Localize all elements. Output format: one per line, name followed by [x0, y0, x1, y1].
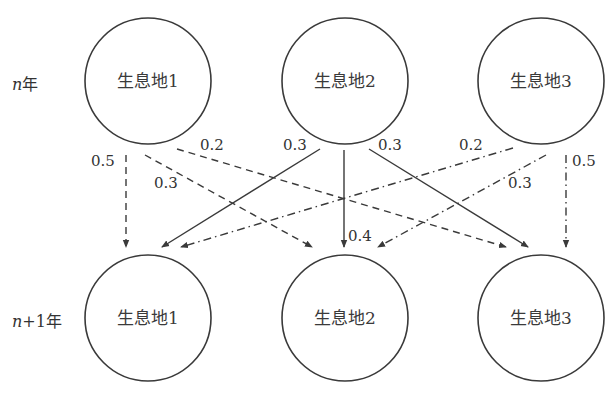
node-habitat-3-year-n: 生息地3 [478, 18, 604, 144]
edge-label-h3-h2: 0.3 [508, 174, 532, 192]
edge-h3-to-h2 [378, 155, 546, 247]
edge-label-h2-h2: 0.4 [348, 227, 372, 245]
node-label: 生息地3 [510, 308, 572, 328]
node-label: 生息地3 [510, 71, 572, 91]
row-label-year-n-plus-1: n+1年 [12, 312, 62, 331]
row-label-year-n: n年 [12, 75, 38, 94]
edge-h1-to-h3 [177, 149, 506, 247]
edge-label-h2-h1: 0.3 [283, 136, 307, 154]
node-label: 生息地1 [117, 308, 179, 328]
edge-h2-to-h1 [162, 149, 320, 247]
node-habitat-2-year-n: 生息地2 [282, 18, 408, 144]
edge-label-h1-h1: 0.5 [91, 152, 115, 170]
nodes-year-n-plus-1: 生息地1 生息地2 生息地3 [85, 255, 604, 381]
node-habitat-1-year-n-plus-1: 生息地1 [85, 255, 211, 381]
edge-h2-to-h3 [369, 149, 528, 247]
node-label: 生息地1 [117, 71, 179, 91]
edges-from-habitat-3 [181, 148, 566, 247]
node-habitat-3-year-n-plus-1: 生息地3 [478, 255, 604, 381]
edge-label-h1-h2: 0.3 [154, 174, 178, 192]
edge-label-h3-h1: 0.2 [459, 136, 483, 154]
node-habitat-2-year-n-plus-1: 生息地2 [282, 255, 408, 381]
node-label: 生息地2 [314, 71, 376, 91]
nodes-year-n: 生息地1 生息地2 生息地3 [85, 18, 604, 144]
edge-h3-to-h1 [181, 148, 513, 247]
edge-label-h3-h3: 0.5 [572, 152, 596, 170]
node-label: 生息地2 [314, 308, 376, 328]
edge-label-h1-h3: 0.2 [200, 136, 224, 154]
habitat-transition-diagram: n年 n+1年 生息地1 生息地2 生息地3 [0, 0, 613, 402]
node-habitat-1-year-n: 生息地1 [85, 18, 211, 144]
edge-label-h2-h3: 0.3 [378, 136, 402, 154]
